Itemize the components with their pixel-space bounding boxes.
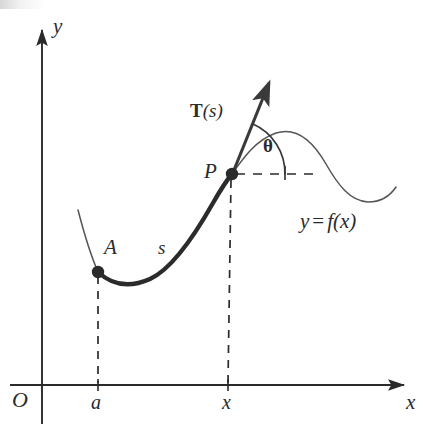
curve-equation-label: y=f(x) <box>300 211 356 232</box>
tangent-vector-label: T(s) <box>190 101 223 120</box>
theta-angle-label: θ <box>263 136 273 155</box>
point-p-marker <box>226 168 238 180</box>
y-axis-label: y <box>53 16 62 37</box>
tangent-vector-argument: (s) <box>203 100 223 121</box>
dropline-x <box>228 180 231 383</box>
arc-length-figure: y x O a x A s P θ T(s) y=f(x) <box>0 0 423 427</box>
curve-segment-before-a <box>78 210 98 272</box>
tangent-vector-symbol: T <box>190 100 203 121</box>
curve-equation-operator: = <box>309 209 327 233</box>
arc-length-label: s <box>158 238 165 257</box>
curve-equation-lhs: y <box>300 209 309 233</box>
point-p-label: P <box>204 161 217 182</box>
point-a-label: A <box>104 237 117 258</box>
tangent-vector-arrow <box>230 83 269 180</box>
tick-label-a: a <box>91 392 101 412</box>
x-axis-label: x <box>406 392 415 413</box>
curve-segment-after-p <box>232 131 396 202</box>
curve-arc-s <box>98 174 232 284</box>
curve-equation-rhs: f(x) <box>327 209 356 233</box>
figure-canvas <box>0 0 423 427</box>
origin-label: O <box>12 389 28 411</box>
point-a-marker <box>92 266 104 278</box>
tick-label-x: x <box>222 392 231 412</box>
